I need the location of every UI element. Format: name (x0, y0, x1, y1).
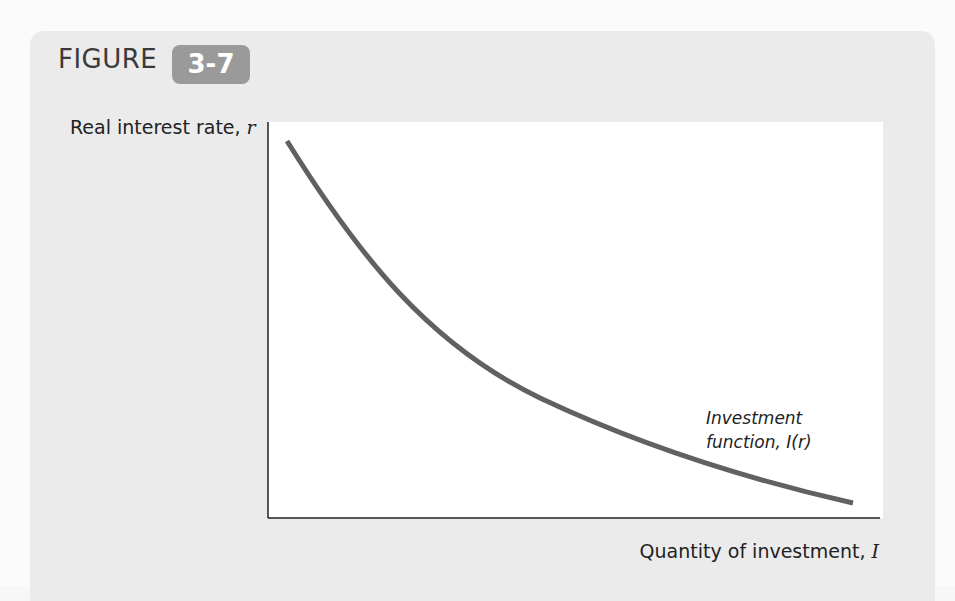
x-axis-label: Quantity of investment, I (640, 540, 879, 562)
curve-label-line1: Investment (706, 406, 812, 430)
curve-label: Investment function, I(r) (706, 406, 812, 454)
curve-label-line2: function, I(r) (706, 430, 812, 454)
x-axis-variable: I (871, 540, 879, 562)
x-axis-label-text: Quantity of investment, (640, 540, 872, 562)
